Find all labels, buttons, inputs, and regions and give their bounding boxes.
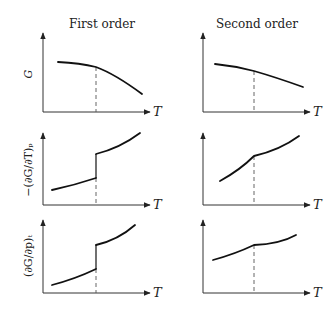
panel-volume-first-order: T (∂G/∂p)ₜ [22, 220, 163, 300]
entropy-curve-high [96, 133, 140, 154]
panel-entropy-first-order: T −(∂G/∂T)ₚ [22, 133, 163, 212]
g-curve [215, 64, 303, 87]
x-axis-label: T [153, 285, 163, 300]
volume-curve-low [52, 269, 96, 285]
volume-curve-high [96, 225, 135, 245]
column-title-first-order: First order [69, 17, 135, 31]
panel-entropy-second-order: T [203, 133, 323, 212]
volume-curve [213, 235, 296, 260]
x-axis-label: T [313, 197, 323, 212]
y-axis-label-entropy: −(∂G/∂T)ₚ [22, 143, 35, 197]
g-curve [58, 62, 142, 94]
column-title-second-order: Second order [216, 17, 298, 31]
panel-g-first-order: T G [22, 33, 163, 119]
x-axis-label: T [153, 104, 163, 119]
panel-volume-second-order: T [203, 220, 323, 300]
phase-transition-diagram: First order Second order T G T T −(∂G/∂T… [0, 0, 336, 314]
x-axis-label: T [313, 104, 323, 119]
entropy-curve-low [52, 178, 96, 190]
y-axis-label-g: G [22, 69, 35, 78]
x-axis-label: T [313, 285, 323, 300]
x-axis-label: T [153, 197, 163, 212]
y-axis-label-volume: (∂G/∂p)ₜ [22, 235, 35, 277]
entropy-curve [220, 136, 299, 181]
panel-g-second-order: T [203, 33, 323, 119]
